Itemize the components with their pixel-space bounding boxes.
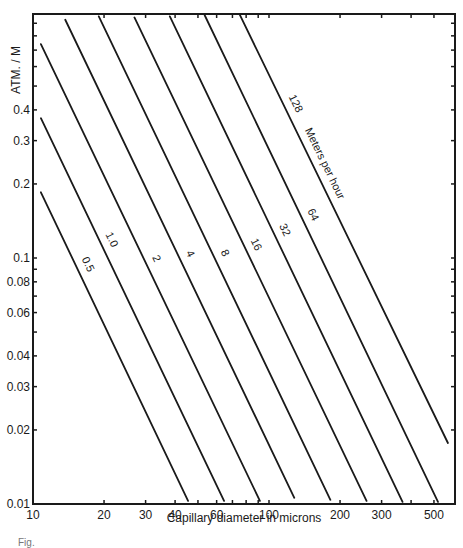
series-line-1.0 <box>41 118 224 501</box>
series-label-2: 2 <box>150 253 163 264</box>
plot-border <box>33 14 455 504</box>
series-line-4 <box>65 20 294 498</box>
y-axis-title: ATM. / M <box>9 46 23 94</box>
series-label-4: 4 <box>184 248 197 259</box>
series-line-2 <box>41 44 260 501</box>
series-label-8: 8 <box>219 248 232 259</box>
x-tick-label: 20 <box>97 508 111 522</box>
series-label-128: 128 <box>287 92 306 114</box>
series-label-16: 16 <box>249 236 265 252</box>
y-tick-label: 0.2 <box>13 177 30 191</box>
plot-frame <box>33 14 455 504</box>
x-axis-title: Capillary diameter in microns <box>167 511 322 525</box>
y-tick-label: 0.03 <box>7 380 31 394</box>
series-label-0.5: 0.5 <box>80 255 97 274</box>
series-label-1.0: 1.0 <box>103 230 120 249</box>
y-tick-label: 0.06 <box>7 306 31 320</box>
series-line-8 <box>99 16 331 499</box>
x-tick-label: 500 <box>424 508 444 522</box>
series-label-32: 32 <box>277 222 293 238</box>
series-line-16 <box>134 17 366 500</box>
y-tick-label: 0.04 <box>7 349 31 363</box>
figure-caption: Fig. <box>18 537 35 548</box>
series-label-64: 64 <box>305 206 321 222</box>
series-line-64 <box>205 15 438 502</box>
series-line-32 <box>170 16 403 502</box>
x-tick-label: 300 <box>372 508 392 522</box>
y-axis: 0.010.020.030.040.060.080.10.20.30.4 <box>7 23 455 511</box>
y-tick-label: 0.08 <box>7 275 31 289</box>
series-lines <box>41 14 448 502</box>
y-tick-label: 0.3 <box>13 134 30 148</box>
x-tick-label: 200 <box>330 508 350 522</box>
y-tick-label: 0.4 <box>13 103 30 117</box>
x-tick-label: 30 <box>139 508 153 522</box>
y-tick-label: 0.02 <box>7 423 31 437</box>
y-tick-label: 0.1 <box>13 251 30 265</box>
y-tick-label: 0.01 <box>7 497 31 511</box>
